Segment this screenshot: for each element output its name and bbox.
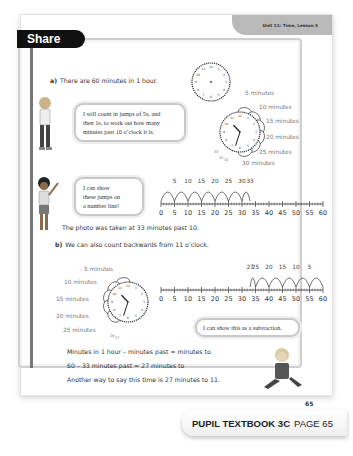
speech-bubble-number-line: I can show these jumps on a number line! xyxy=(74,177,144,216)
part-a-intro: a)There are 60 minutes in 1 hour. xyxy=(50,77,158,84)
clock-numeral: 9 xyxy=(195,80,197,84)
number-line-tick-label: 35 xyxy=(251,209,259,217)
clock-numeral: 4 xyxy=(253,138,255,142)
jump-label: 25 xyxy=(225,178,233,184)
clock-numeral: 4 xyxy=(223,88,225,92)
jump-label: 10 xyxy=(184,178,192,184)
jump-arc xyxy=(188,192,202,201)
number-line-tick-label: 20 xyxy=(211,295,219,303)
jump-arc xyxy=(283,278,297,287)
number-line-tick-label: 10 xyxy=(184,295,192,303)
bubble-line: minutes past 10 o’clock it is. xyxy=(83,127,177,136)
clock-numeral: 8 xyxy=(197,88,199,92)
clock-numeral: 10 xyxy=(196,73,200,77)
character-girl-pointing-icon xyxy=(32,175,62,235)
clock-numeral: 4 xyxy=(141,308,143,312)
number-line-tick-label: 50 xyxy=(292,209,300,217)
subtraction-line-3: Another way to say this time is 27 minut… xyxy=(67,376,220,383)
clock-numeral: 6 xyxy=(210,95,212,99)
clock-numeral: 6 xyxy=(239,146,241,150)
number-line-tick-label: 45 xyxy=(278,209,286,217)
part-a-intro-text: There are 60 minutes in 1 hour. xyxy=(60,77,158,84)
number-line-backward: 05101520253035404550556051015202527 xyxy=(155,262,330,308)
clock-numeral: 10 xyxy=(112,292,116,296)
number-line-tick-label: 15 xyxy=(197,209,205,217)
jump-label: 20 xyxy=(265,264,273,270)
jump-arc xyxy=(229,192,243,201)
jump-arc xyxy=(269,278,283,287)
footer-book: PUPIL TEXTBOOK 3C xyxy=(192,418,290,429)
subtraction-line-1: Minutes in 1 hour – minutes past = minut… xyxy=(67,348,211,355)
part-b-intro: b)We can also count backwards from 11 o’… xyxy=(55,241,209,248)
clock-numeral: 8 xyxy=(225,138,227,142)
number-line-tick-label: 40 xyxy=(265,295,273,303)
number-line-tick-label: 55 xyxy=(305,209,313,217)
jump-label: 27 xyxy=(246,264,254,270)
subtraction-line-2: 60 – 33 minutes past = 27 minutes to xyxy=(67,362,184,369)
clock-numeral: 3 xyxy=(255,130,257,134)
clock-numeral: 9 xyxy=(223,130,225,134)
clock-numeral: 12 xyxy=(209,65,213,69)
bubble-line: then 1s, to work out how many xyxy=(83,118,177,127)
bubble-line: I can show this as a subtraction. xyxy=(203,323,292,332)
jump-arc xyxy=(161,192,175,201)
clock-small-label: 31 xyxy=(224,158,228,162)
number-line-tick-label: 50 xyxy=(292,295,300,303)
speech-bubble-counting: I will count in jumps of 5s, and then 1s… xyxy=(74,103,186,142)
part-b-intro-text: We can also count backwards from 11 o’cl… xyxy=(65,241,208,248)
clock-small-label: 27 xyxy=(115,336,119,340)
jump-arc xyxy=(296,278,310,287)
clock-numeral: 2 xyxy=(141,292,143,296)
number-line-tick-label: 25 xyxy=(224,209,232,217)
bubble-line: a number line! xyxy=(83,201,135,210)
blank-clock-icon: 123456789101112 xyxy=(190,61,232,103)
bubble-line: I can show xyxy=(83,183,135,192)
number-line-tick-label: 0 xyxy=(159,295,163,303)
footer-page: PAGE 65 xyxy=(294,418,333,429)
clock-label: 15 minutes xyxy=(266,118,299,124)
number-line-tick-label: 30 xyxy=(238,295,246,303)
jump-label: 20 xyxy=(211,178,219,184)
jump-arc xyxy=(242,192,250,201)
number-line-tick-label: 60 xyxy=(319,295,327,303)
part-b-label: b) xyxy=(55,241,62,248)
jump-label: 5 xyxy=(308,264,312,270)
bubble-line: I will count in jumps of 5s, and xyxy=(83,109,177,118)
character-girl-icon xyxy=(34,95,56,157)
clock-numeral: 9 xyxy=(111,300,113,304)
clock-numeral: 2 xyxy=(223,73,225,77)
clock-numeral: 8 xyxy=(113,308,115,312)
number-line-tick-label: 15 xyxy=(197,295,205,303)
unit-label: Unit 11: Time, Lesson 5 xyxy=(232,15,332,35)
clock-numeral: 7 xyxy=(119,314,121,318)
jump-label: 5 xyxy=(173,178,177,184)
number-line-tick-label: 55 xyxy=(305,295,313,303)
clock-numeral: 1 xyxy=(135,286,137,290)
clock-label: 5 minutes xyxy=(245,90,274,96)
clock-numeral: 11 xyxy=(118,286,122,290)
clock-numeral: 3 xyxy=(143,300,145,304)
clock-label: 20 minutes xyxy=(266,134,299,140)
clock-numeral: 7 xyxy=(231,144,233,148)
clock-label: 20 minutes xyxy=(56,313,89,319)
clock-numeral: 12 xyxy=(126,284,130,288)
number-line-tick-label: 5 xyxy=(172,209,176,217)
number-line-tick-label: 0 xyxy=(159,209,163,217)
clock-label: 25 minutes xyxy=(63,327,96,333)
jump-arc xyxy=(310,278,324,287)
section-title: Share xyxy=(17,30,85,48)
number-line-tick-label: 60 xyxy=(319,209,327,217)
jump-arc xyxy=(215,192,229,201)
character-boy-sitting-icon xyxy=(262,345,304,391)
clock-numeral: 7 xyxy=(203,93,205,97)
part-a-label: a) xyxy=(50,77,57,84)
page-number: 65 xyxy=(305,400,313,407)
footer-badge: PUPIL TEXTBOOK 3C PAGE 65 xyxy=(182,410,347,436)
number-line-tick-label: 30 xyxy=(238,209,246,217)
number-line-tick-label: 35 xyxy=(251,295,259,303)
speech-bubble-subtraction: I can show this as a subtraction. xyxy=(195,318,300,337)
clock-numeral: 11 xyxy=(230,116,234,120)
jump-label: 10 xyxy=(292,264,300,270)
number-line-tick-label: 10 xyxy=(184,209,192,217)
jump-arc xyxy=(256,278,270,287)
